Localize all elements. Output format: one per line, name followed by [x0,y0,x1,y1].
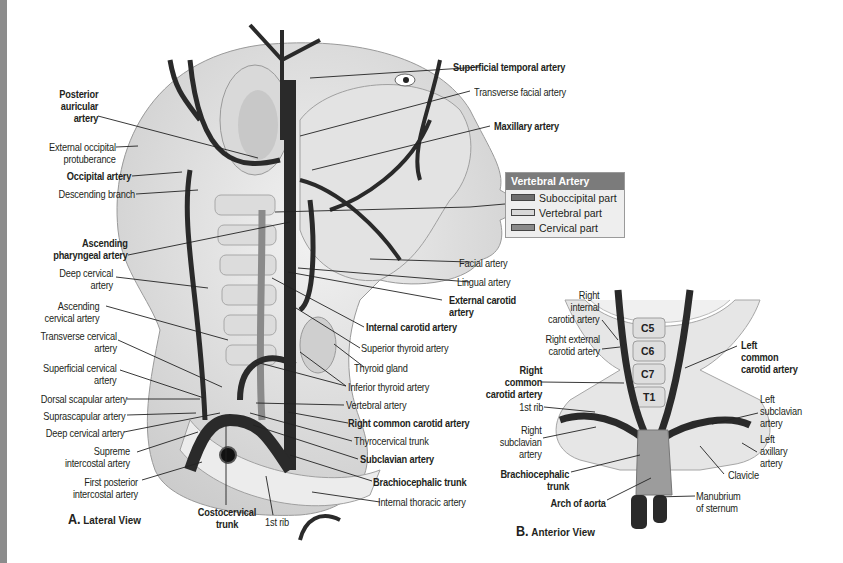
label-dorsal-scapular-artery: Dorsal scapular artery [40,393,127,405]
label-superficial-cervical-artery: Superficial cervical artery [43,362,117,386]
label-suprascapular-artery: Suprascapular artery [43,410,125,422]
label-internal-carotid-artery: Internal carotid artery [366,321,457,333]
legend-item-vertebral: Vertebral part [506,205,624,220]
label-deep-cervical-artery-lower: Deep cervical artery [45,427,124,439]
legend-item-suboccipital: Suboccipital part [506,190,624,205]
label-lingual-artery: Lingual artery [457,276,511,288]
label-superficial-temporal-artery: Superficial temporal artery [453,61,565,73]
label-external-carotid-artery: External carotid artery [449,294,516,318]
label-superior-thyroid-artery: Superior thyroid artery [361,342,448,354]
legend-swatch-icon [511,194,535,201]
label-right-common-carotid-artery: Right common carotid artery [348,417,470,429]
label-thyroid-gland: Thyroid gland [354,362,408,374]
label-internal-thoracic-artery: Internal thoracic artery [378,496,466,508]
label-ascending-cervical-artery: Ascending cervical artery [44,300,99,324]
label-left-axillary-artery: Left axillary artery [760,433,787,469]
label-ascending-pharyngeal-artery: Ascending pharyngeal artery [53,237,128,261]
label-manubrium-of-sternum: Manubrium of sternum [696,490,741,514]
vertebra-label-c5: C5 [641,322,654,334]
label-facial-artery: Facial artery [459,257,508,269]
legend-swatch-icon [511,224,535,231]
legend-swatch-icon [511,209,535,216]
label-1st-rib-lateral: 1st rib [265,516,289,528]
legend-title: Vertebral Artery [506,173,624,190]
label-occipital-artery: Occipital artery [67,170,131,182]
label-external-occipital-protuberance: External occipital protuberance [49,141,116,165]
label-arch-of-aorta: Arch of aorta [551,497,606,509]
label-right-common-carotid-artery-anterior: Right common carotid artery [485,364,542,400]
label-clavicle: Clavicle [728,469,759,481]
label-transverse-cervical-artery: Transverse cervical artery [41,330,117,354]
legend-item-cervical: Cervical part [506,220,624,235]
label-subclavian-artery: Subclavian artery [360,453,434,465]
label-costocervical-trunk: Costocervical trunk [196,506,258,530]
label-1st-rib-anterior: 1st rib [519,401,543,413]
label-descending-branch: Descending branch [58,188,135,200]
label-supreme-intercostal-artery: Supreme intercostal artery [65,445,130,469]
label-right-subclavian-artery: Right subclavian artery [500,424,542,460]
label-vertebral-artery: Vertebral artery [346,399,406,411]
label-brachiocephalic-trunk-anterior: Brachiocephalic trunk [500,468,569,492]
label-right-internal-carotid-artery: Right internal carotid artery [548,289,599,325]
label-maxillary-artery: Maxillary artery [494,120,559,132]
label-left-subclavian-artery: Left subclavian artery [760,393,802,429]
vertebral-artery-legend: Vertebral Artery Suboccipital part Verte… [505,172,625,238]
label-first-posterior-intercostal-artery: First posterior intercostal artery [73,476,138,500]
label-posterior-auricular-artery: Posterior auricular artery [59,88,98,124]
label-inferior-thyroid-artery: Inferior thyroid artery [348,381,429,393]
panel-b-caption: B.Anterior View [516,523,595,539]
vertebra-label-c6: C6 [641,345,654,357]
label-right-external-carotid-artery: Right external carotid artery [545,333,600,357]
panel-a-caption: A.Lateral View [68,511,141,527]
label-deep-cervical-artery-upper: Deep cervical artery [59,267,113,291]
vertebra-label-t1: T1 [643,391,655,403]
label-thyrocervical-trunk: Thyrocervical trunk [354,435,429,447]
label-brachiocephalic-trunk: Brachiocephalic trunk [373,476,466,488]
vertebra-label-c7: C7 [641,368,654,380]
label-transverse-facial-artery: Transverse facial artery [474,86,566,98]
label-left-common-carotid-artery: Left common carotid artery [741,339,798,375]
